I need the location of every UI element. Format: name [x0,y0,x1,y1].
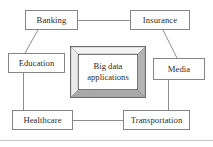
node-big-data-applications[interactable]: Big data applications [70,46,146,98]
node-insurance-label: Insurance [143,16,177,25]
node-education-label: Education [19,59,55,68]
diagram-canvas: Banking Insurance Education Media Health… [0,0,213,147]
node-banking[interactable]: Banking [25,10,78,30]
center-label-box: Big data applications [78,54,138,90]
connector-insurance-media [163,30,177,58]
bottom-divider [0,140,213,141]
node-transportation-label: Transportation [131,116,183,125]
node-insurance[interactable]: Insurance [130,10,190,30]
node-healthcare[interactable]: Healthcare [12,110,73,130]
connector-banking-education [25,30,38,53]
center-label-line1: Big data [94,61,123,72]
node-banking-label: Banking [37,16,67,25]
node-healthcare-label: Healthcare [23,116,61,125]
center-label-line2: applications [87,72,129,83]
node-education[interactable]: Education [8,53,65,73]
node-transportation[interactable]: Transportation [123,110,190,130]
node-media-label: Media [168,65,190,74]
node-media[interactable]: Media [153,58,205,80]
